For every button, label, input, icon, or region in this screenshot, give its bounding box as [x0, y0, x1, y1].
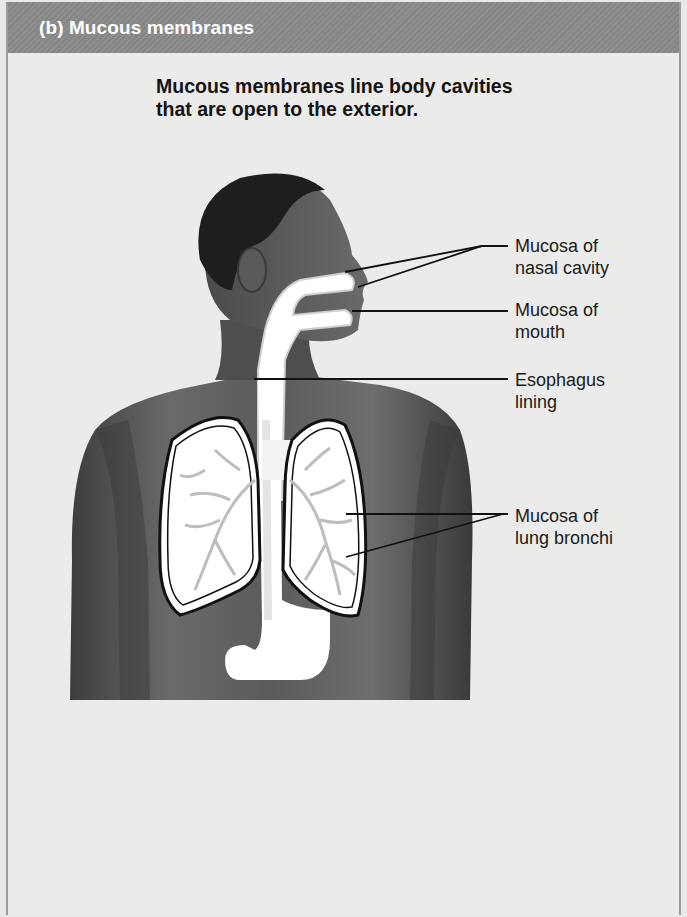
- label-line: lung bronchi: [515, 527, 613, 549]
- label-lung-bronchi: Mucosa of lung bronchi: [515, 505, 613, 549]
- label-nasal-cavity: Mucosa of nasal cavity: [515, 235, 609, 279]
- label-line: Mucosa of: [515, 505, 613, 527]
- label-line: mouth: [515, 321, 598, 343]
- label-line: lining: [515, 391, 605, 413]
- right-lung: [283, 420, 366, 616]
- leader-nasal-1: [345, 246, 508, 272]
- label-esophagus: Esophagus lining: [515, 369, 605, 413]
- label-line: nasal cavity: [515, 257, 609, 279]
- anatomy-illustration: [0, 0, 687, 917]
- leader-nasal-2: [358, 246, 508, 287]
- label-mouth: Mucosa of mouth: [515, 299, 598, 343]
- left-lung: [160, 418, 260, 616]
- label-line: Esophagus: [515, 369, 605, 391]
- label-line: Mucosa of: [515, 299, 598, 321]
- label-line: Mucosa of: [515, 235, 609, 257]
